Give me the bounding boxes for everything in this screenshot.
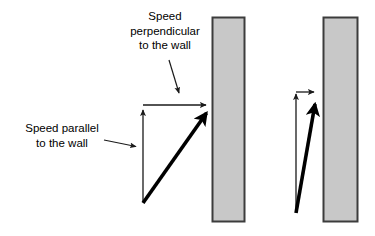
vector-resultant-left	[143, 113, 207, 203]
diagram-canvas: Speed perpendicular to the wall Speed pa…	[0, 0, 375, 236]
wall-right	[324, 18, 358, 222]
label-speed-parallel: Speed parallel to the wall	[12, 121, 112, 150]
diagram-right-group	[296, 18, 358, 222]
vector-resultant-right	[296, 104, 315, 213]
pointer-arrow-perpendicular	[169, 60, 179, 93]
wall-left	[213, 18, 245, 222]
label-speed-perpendicular: Speed perpendicular to the wall	[122, 9, 208, 53]
